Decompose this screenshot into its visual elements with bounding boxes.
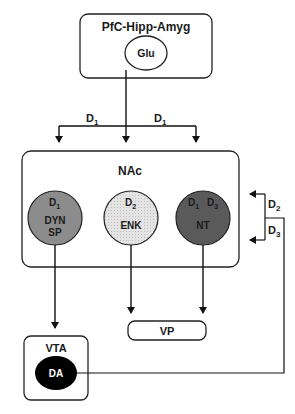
circuit-diagram: PfC-Hipp-Amyg Glu D1 D1 NAc D1 DYN SP D2…	[0, 0, 295, 414]
dyn-label: DYN	[44, 215, 65, 226]
enk-label: ENK	[120, 220, 142, 231]
nac-title: NAc	[118, 164, 142, 178]
source-region-title: PfC-Hipp-Amyg	[102, 20, 191, 34]
vp-box: VP	[128, 321, 206, 340]
glu-label: Glu	[137, 47, 155, 59]
vp-label: VP	[160, 325, 175, 337]
da-label: DA	[49, 368, 63, 379]
dyn-neuron: D1 DYN SP	[28, 191, 82, 245]
nac-outputs	[55, 245, 203, 328]
glu-projection	[59, 70, 196, 142]
top-left-receptor: D1	[86, 112, 99, 127]
side-receptor-d3: D3	[268, 224, 281, 239]
enk-neuron: D2 ENK	[104, 191, 158, 245]
top-right-receptor: D1	[154, 112, 167, 127]
vta-title: VTA	[45, 342, 66, 354]
source-region-box: PfC-Hipp-Amyg Glu	[80, 14, 212, 78]
sp-label: SP	[48, 227, 62, 238]
nt-label: NT	[196, 220, 209, 231]
nt-neuron: D1 D3 NT	[176, 191, 230, 245]
side-receptor-d2: D2	[268, 198, 281, 213]
vta-box: VTA DA	[24, 336, 88, 400]
